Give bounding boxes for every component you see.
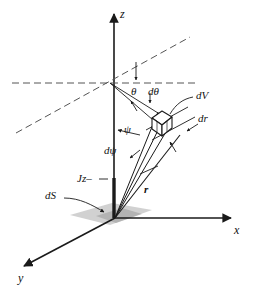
axis-label-z: z — [120, 8, 125, 20]
r-tick-mark — [140, 166, 158, 174]
theta-label: θ — [131, 86, 136, 97]
dV-leader-line — [170, 97, 193, 114]
dpsi-label: dψ — [104, 145, 116, 156]
psi-label: ψ — [124, 124, 131, 135]
dV-label: dV — [196, 90, 208, 101]
diagram-canvas — [0, 0, 254, 295]
Jz-label: Jz– — [77, 173, 92, 184]
dS-label: dS — [45, 190, 56, 201]
spherical-coordinate-diagram: z x y θ dθ dV dr ψ dψ r Jz– dS — [0, 0, 254, 295]
y-axis-line — [24, 218, 115, 266]
axis-label-x: x — [234, 224, 239, 236]
dpsi-indicator-arrow — [130, 150, 140, 158]
dV-volume-element — [152, 111, 172, 136]
axis-label-y: y — [18, 272, 23, 284]
r-label: r — [144, 184, 148, 195]
dr-label: dr — [198, 113, 208, 124]
dr-indicator-arrow — [187, 124, 198, 131]
dtheta-label: dθ — [148, 86, 159, 97]
dS-shaded-patch — [70, 203, 152, 225]
